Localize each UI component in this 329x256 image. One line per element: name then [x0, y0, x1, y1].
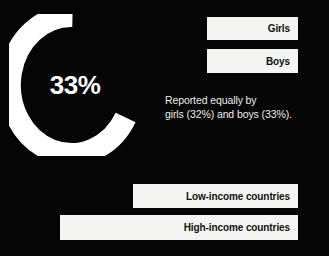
donut-arc-segment	[10, 16, 126, 154]
bar-high-income-label: High-income countries	[184, 222, 290, 233]
infographic-panel: 33% Girls Boys Reported equally by girls…	[0, 0, 329, 256]
bar-girls-label: Girls	[268, 23, 290, 34]
caption-text: Reported equally by girls (32%) and boys…	[165, 93, 329, 121]
bar-high-income-countries: High-income countries	[60, 215, 298, 240]
donut-chart: 33%	[9, 14, 136, 156]
caption-line-1: Reported equally by	[165, 93, 329, 107]
bar-boys-label: Boys	[266, 56, 290, 67]
donut-chart-svg	[9, 14, 136, 156]
caption-line-2: girls (32%) and boys (33%).	[165, 107, 329, 121]
bar-low-income-countries: Low-income countries	[133, 184, 298, 208]
bar-girls: Girls	[207, 17, 298, 40]
bar-boys: Boys	[207, 49, 298, 73]
bar-low-income-label: Low-income countries	[186, 191, 290, 202]
